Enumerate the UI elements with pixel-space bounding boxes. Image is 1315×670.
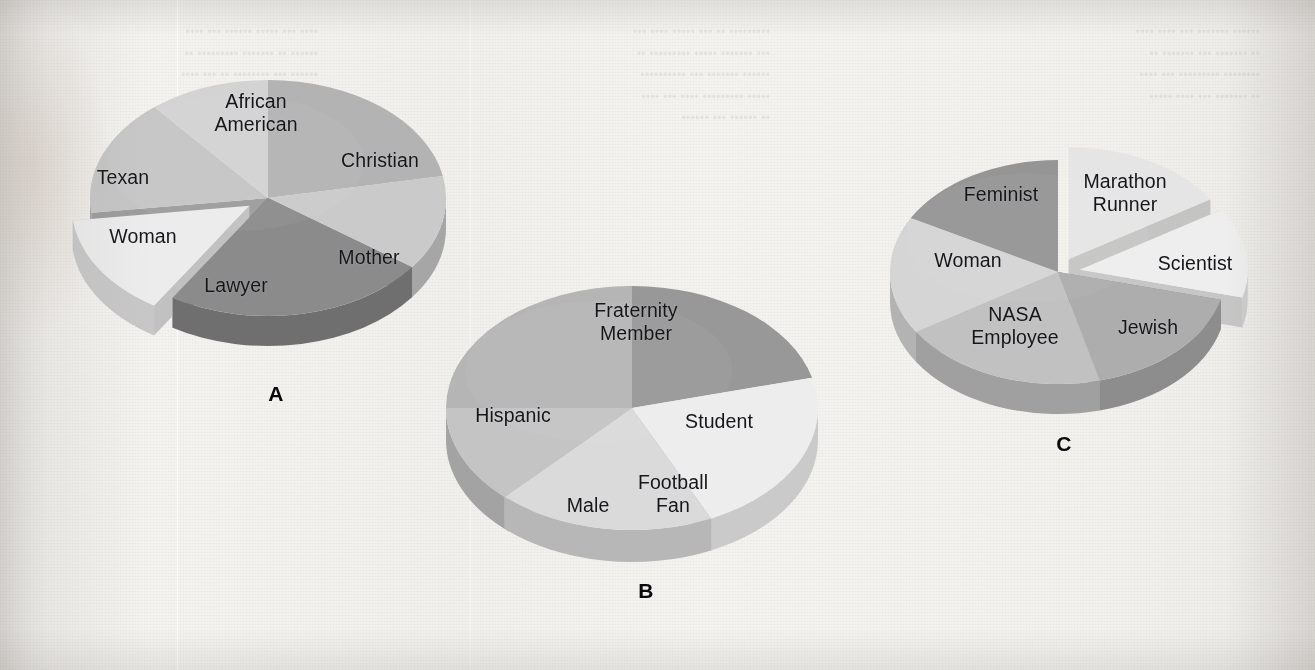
- pie-c-canvas: [0, 0, 1315, 670]
- panel-letter-c: C: [1056, 432, 1072, 456]
- figure-page: •••• ••• ••••• •••••• ••• •••• •••••• ••…: [0, 0, 1315, 670]
- pie-c-svg: [0, 0, 1315, 670]
